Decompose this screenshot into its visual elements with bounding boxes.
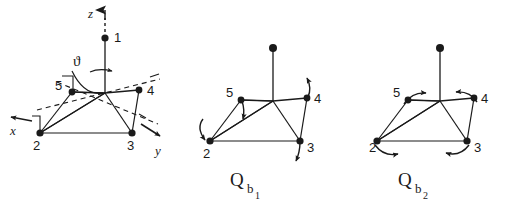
x-axis-label: x (9, 123, 16, 138)
qb2-vertex-3-label: 3 (474, 140, 481, 155)
y-axis: y (141, 124, 161, 158)
qb1-mode-sub: b (247, 181, 254, 196)
vertex-3 (128, 129, 135, 136)
qb1-vertex-5 (238, 97, 245, 104)
qb1-arrow-at-2 (200, 119, 205, 140)
qb2-mode-label: Q (398, 169, 412, 190)
panel-reference: z 1 ϑ (9, 6, 161, 158)
qb2-vertex-3 (463, 137, 470, 144)
vertex-2 (36, 129, 43, 136)
theta-label: ϑ (73, 53, 81, 69)
qb2-vertex-4-label: 4 (481, 91, 488, 106)
vertex-1-label: 1 (114, 30, 121, 45)
qb1-arrow-at-4 (307, 78, 310, 97)
vertex-4 (136, 87, 143, 94)
z-axis: z (87, 6, 105, 38)
vertex-1 (101, 34, 108, 41)
qb1-mode-sub2: 1 (255, 190, 260, 201)
qb2-mode-sub: b (415, 181, 422, 196)
panel-qb1: 5 4 2 3 Q b 1 (200, 44, 321, 201)
qb1-mode-label: Q (230, 169, 244, 190)
qb2-vertex-5-label: 5 (393, 85, 400, 100)
qb1-vertex-1 (269, 44, 277, 52)
figure-canvas: z 1 ϑ (0, 0, 510, 204)
qb1-vertex-2-label: 2 (203, 146, 210, 161)
projection-ticks (32, 74, 159, 133)
qb1-arrow-at-3 (296, 142, 300, 161)
qb1-vertex-2 (206, 137, 213, 144)
qb2-mode-sub2: 2 (423, 190, 428, 201)
vertex-3-label: 3 (127, 138, 134, 153)
qb1-vertex-4-label: 4 (314, 91, 321, 106)
qb2-vertex-1 (436, 44, 444, 52)
y-axis-label: y (153, 143, 161, 158)
qb2-equatorial-frame (377, 98, 474, 141)
z-axis-label: z (87, 6, 93, 21)
panel-qb2: 5 4 2 3 Q b 2 (369, 44, 488, 201)
x-axis: x (9, 117, 32, 138)
qb2-arrow-at-2 (375, 145, 398, 155)
qb1-vertex-4 (304, 95, 311, 102)
vertex-5-label: 5 (55, 78, 62, 93)
qb1-arrows (200, 78, 310, 161)
qb1-vertex-3-label: 3 (307, 140, 314, 155)
theta-angle: ϑ (72, 53, 112, 93)
vertex-2-label: 2 (33, 138, 40, 153)
diagram-svg: z 1 ϑ (0, 0, 510, 204)
qb1-vertex-5-label: 5 (226, 85, 233, 100)
qb1-equatorial-frame (210, 98, 307, 141)
qb1-arrow-at-5 (242, 101, 244, 119)
qb2-vertex-2-label: 2 (369, 140, 376, 155)
qb2-arrow-at-3 (446, 145, 469, 154)
vertex-5 (69, 89, 76, 96)
vertex-4-label: 4 (147, 83, 154, 98)
